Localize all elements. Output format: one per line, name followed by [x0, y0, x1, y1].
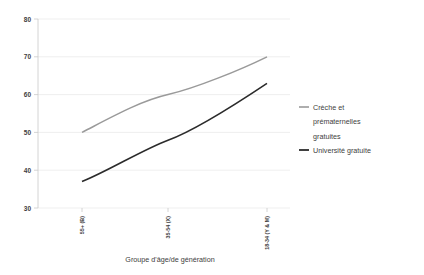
- legend-label-creche-line2: prématernelles: [313, 117, 361, 126]
- legend-entry-universite[interactable]: Université gratuite: [299, 146, 371, 155]
- plot-area-background: [38, 19, 290, 208]
- y-tick-label-40: 40: [24, 167, 32, 174]
- legend-label-universite: Université gratuite: [313, 146, 371, 155]
- chart-canvas: 80 70 60 50 40 30 55+ (B) 35-54 (X) 18-3…: [0, 0, 424, 275]
- line-chart: 80 70 60 50 40 30 55+ (B) 35-54 (X) 18-3…: [0, 0, 424, 275]
- legend-label-creche-line1: Crèche et: [313, 103, 344, 112]
- x-axis-title: Groupe d'âge/de génération: [125, 255, 214, 264]
- x-tick-label-2: 18-34 (Y & M): [264, 216, 270, 250]
- y-tick-label-50: 50: [24, 129, 32, 136]
- y-tick-label-30: 30: [24, 205, 32, 212]
- x-tick-label-0: 55+ (B): [79, 216, 85, 234]
- legend-label-creche-line3: gratuites: [313, 132, 341, 141]
- y-tick-label-60: 60: [24, 91, 32, 98]
- legend: Crèche et prématernelles gratuites Unive…: [299, 103, 371, 155]
- x-tick-label-1: 35-54 (X): [165, 216, 171, 239]
- y-tick-label-70: 70: [24, 53, 32, 60]
- y-tick-label-80: 80: [24, 16, 32, 23]
- legend-entry-creche[interactable]: Crèche et prématernelles gratuites: [299, 103, 361, 141]
